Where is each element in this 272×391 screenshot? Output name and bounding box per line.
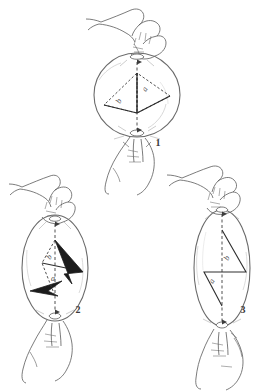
panel-number-3: 3 xyxy=(241,304,246,315)
pinch-nub-top-3 xyxy=(216,207,228,212)
pinch-nub-top-2 xyxy=(49,216,61,221)
panel-number-1: 1 xyxy=(156,137,161,148)
pinch-nub-bottom-2 xyxy=(49,313,61,319)
pinch-nub-bottom-1 xyxy=(130,130,144,136)
figure-illustration: a b 1 xyxy=(0,0,272,391)
pinch-nub-bottom-3 xyxy=(216,322,228,328)
label-a-panel-2: a xyxy=(51,274,55,283)
pinch-nub-top-1 xyxy=(130,54,144,59)
panel-number-2: 2 xyxy=(76,304,81,315)
